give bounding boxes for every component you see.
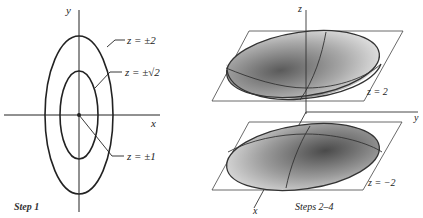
z-axis-label: z	[297, 3, 302, 14]
y-axis-label: y	[65, 4, 71, 16]
leader-line-origin	[79, 115, 124, 156]
x-axis-label: x	[150, 117, 156, 129]
caption-steps-2-4: Steps 2–4	[295, 201, 334, 212]
label-plane-z-neg-2: z = −2	[367, 177, 395, 188]
label-plane-z-2: z = 2	[366, 86, 388, 97]
upper-bowl-top	[222, 22, 383, 107]
label-z-pm-sqrt2: z = ±√2	[124, 66, 160, 78]
leader-line-outer	[107, 40, 125, 47]
x-axis-label-3d: x	[252, 205, 258, 216]
y-axis-label-3d: y	[413, 112, 419, 123]
diagram-canvas: y x z = ±2 z = ±√2 z = ±1 Step 1 z y x z…	[0, 0, 423, 218]
label-z-pm-1: z = ±1	[126, 150, 156, 162]
label-z-pm-2: z = ±2	[126, 34, 156, 46]
caption-step-1: Step 1	[14, 201, 39, 212]
